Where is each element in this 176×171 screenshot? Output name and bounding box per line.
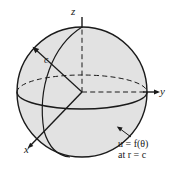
y-axis-label: y: [160, 86, 165, 97]
boundary-condition-line-2: at r = c: [118, 149, 146, 161]
radius-label-c: c: [44, 55, 48, 65]
sphere-diagram-figure: z y x c u = f(θ) at r = c: [0, 0, 176, 171]
boundary-condition-line-1: u = f(θ): [118, 138, 148, 150]
x-axis-label: x: [24, 144, 29, 155]
z-axis-label: z: [71, 6, 75, 17]
